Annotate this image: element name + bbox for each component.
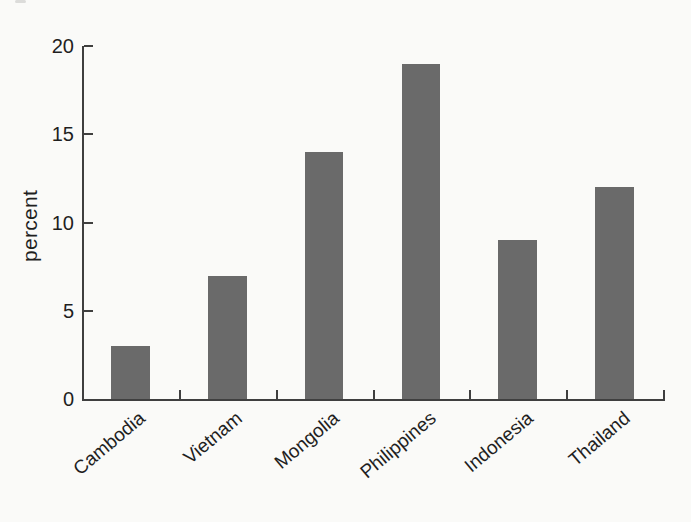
y-tick-mark (84, 133, 93, 135)
x-tick-mark (663, 390, 665, 399)
scan-artifact (15, 0, 26, 3)
bar-chart-figure: percent 05101520 CambodiaVietnamMongolia… (0, 0, 691, 522)
bar-thailand (595, 187, 634, 399)
bar-cambodia (111, 346, 150, 399)
x-tick-mark (373, 390, 375, 399)
y-tick-label: 20 (26, 35, 74, 57)
y-tick-mark (84, 45, 93, 47)
y-tick-mark (84, 222, 93, 224)
bar-vietnam (208, 276, 247, 400)
y-tick-label: 10 (26, 212, 74, 234)
y-tick-mark (84, 310, 93, 312)
x-tick-mark (276, 390, 278, 399)
bar-indonesia (498, 240, 537, 399)
bar-mongolia (305, 152, 344, 399)
x-tick-mark (179, 390, 181, 399)
y-tick-label: 0 (26, 388, 74, 410)
bar-philippines (402, 64, 441, 399)
y-axis-line (82, 46, 84, 401)
y-tick-label: 15 (26, 123, 74, 145)
x-tick-mark (469, 390, 471, 399)
y-tick-label: 5 (26, 300, 74, 322)
x-tick-mark (566, 390, 568, 399)
x-axis-line (82, 399, 665, 401)
